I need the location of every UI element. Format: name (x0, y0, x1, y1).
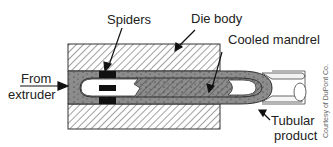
from-label: From (21, 72, 51, 86)
spiders (99, 71, 116, 104)
product-label: product (274, 129, 317, 143)
extruder-label: extruder (8, 88, 56, 102)
die-body-label: Die body (191, 12, 242, 26)
spiders-label: Spiders (107, 13, 151, 27)
cooled-mandrel-label: Cooled mandrel (228, 33, 320, 47)
tubular-label: Tubular (271, 114, 315, 128)
credit-text: Courtesy of DuPont Co. (322, 64, 329, 138)
